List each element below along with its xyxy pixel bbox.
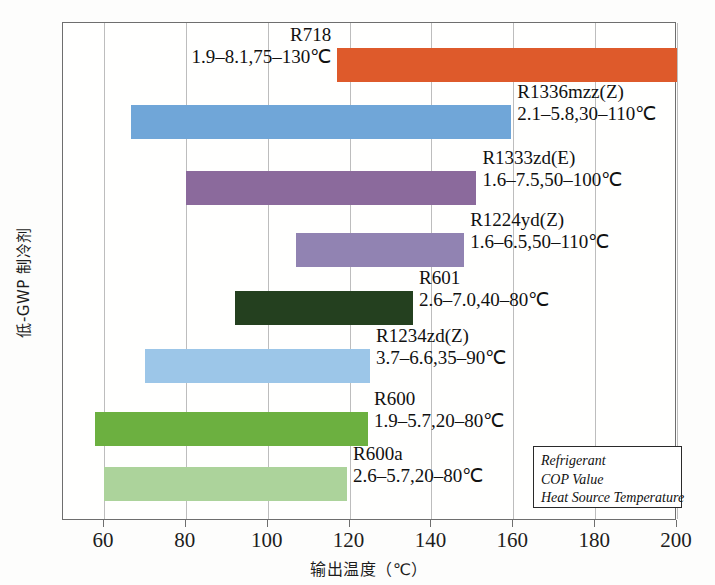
bar-label-R600a: R600a2.6–5.7,20–80℃ <box>353 443 483 488</box>
tick-mark-60 <box>103 520 104 527</box>
bar-R1333zd(E) <box>186 171 477 205</box>
bar-label-meta-R1333zd(E): 1.6–7.5,50–100℃ <box>482 169 622 191</box>
bar-label-R600: R6001.9–5.7,20–80℃ <box>374 388 504 433</box>
bar-label-R1224yd(Z): R1224yd(Z)1.6–6.5,50–110℃ <box>470 209 609 254</box>
x-tick-label-80: 80 <box>155 528 215 553</box>
bar-label-R1234zd(Z): R1234zd(Z)3.7–6.6,35–90℃ <box>376 325 506 370</box>
x-tick-label-200: 200 <box>646 528 706 553</box>
bar-label-meta-R1224yd(Z): 1.6–6.5,50–110℃ <box>470 231 609 253</box>
legend-line-refrigerant: Refrigerant <box>541 452 681 471</box>
chart-figure: 低-GWP 制冷剂 6080100120140160180200 R7181.9… <box>0 0 715 585</box>
bar-R1234zd(Z) <box>145 349 370 383</box>
bar-label-meta-R718: 1.9–8.1,75–130℃ <box>192 46 332 68</box>
bar-label-meta-R600a: 2.6–5.7,20–80℃ <box>353 465 483 487</box>
bar-label-name-R600a: R600a <box>353 443 483 465</box>
bar-label-meta-R1336mzz(Z): 2.1–5.8,30–110℃ <box>517 103 656 125</box>
bar-label-name-R1224yd(Z): R1224yd(Z) <box>470 209 609 231</box>
bar-label-name-R601: R601 <box>419 267 549 289</box>
x-tick-label-120: 120 <box>319 528 379 553</box>
legend-line-cop-value: COP Value <box>541 471 681 490</box>
bar-R718 <box>337 48 677 82</box>
bar-R1336mzz(Z) <box>131 105 512 139</box>
x-tick-label-180: 180 <box>564 528 624 553</box>
bar-R601 <box>235 291 413 325</box>
legend-line-heat-source-temperature: Heat Source Temperature <box>541 489 681 508</box>
bar-label-name-R1336mzz(Z): R1336mzz(Z) <box>517 81 656 103</box>
tick-mark-200 <box>676 520 677 527</box>
x-tick-label-140: 140 <box>400 528 460 553</box>
y-axis-label: 低-GWP 制冷剂 <box>12 183 33 383</box>
bar-label-name-R1234zd(Z): R1234zd(Z) <box>376 325 506 347</box>
bar-R600a <box>104 467 347 501</box>
tick-mark-140 <box>430 520 431 527</box>
x-tick-label-100: 100 <box>237 528 297 553</box>
x-tick-label-60: 60 <box>73 528 133 553</box>
tick-mark-100 <box>267 520 268 527</box>
gridline-200 <box>677 23 678 519</box>
bar-label-name-R718: R718 <box>192 24 332 46</box>
legend-box: Refrigerant COP Value Heat Source Temper… <box>533 446 682 508</box>
bar-label-meta-R601: 2.6–7.0,40–80℃ <box>419 289 549 311</box>
bar-R600 <box>95 412 368 446</box>
bar-label-R1333zd(E): R1333zd(E)1.6–7.5,50–100℃ <box>482 147 622 192</box>
x-axis-label: 输出温度（℃） <box>62 556 676 580</box>
x-tick-label-160: 160 <box>482 528 542 553</box>
bar-label-meta-R1234zd(Z): 3.7–6.6,35–90℃ <box>376 347 506 369</box>
bar-R1224yd(Z) <box>296 233 464 267</box>
tick-mark-120 <box>349 520 350 527</box>
tick-mark-80 <box>185 520 186 527</box>
bar-label-R718: R7181.9–8.1,75–130℃ <box>192 24 332 69</box>
bar-label-name-R600: R600 <box>374 388 504 410</box>
tick-mark-160 <box>512 520 513 527</box>
bar-label-meta-R600: 1.9–5.7,20–80℃ <box>374 410 504 432</box>
bar-label-R601: R6012.6–7.0,40–80℃ <box>419 267 549 312</box>
bar-label-name-R1333zd(E): R1333zd(E) <box>482 147 622 169</box>
bar-label-R1336mzz(Z): R1336mzz(Z)2.1–5.8,30–110℃ <box>517 81 656 126</box>
tick-mark-180 <box>594 520 595 527</box>
